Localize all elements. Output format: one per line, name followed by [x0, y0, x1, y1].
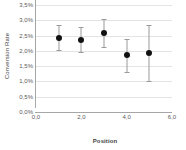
data-point-group	[75, 5, 87, 112]
x-axis-line	[35, 112, 172, 113]
y-axis-title-label: Conversion Rate	[4, 33, 10, 79]
data-point-marker	[124, 52, 130, 58]
y-axis-tick-label: 3,0%	[19, 17, 33, 23]
x-axis-title: Position	[36, 138, 174, 144]
y-axis-tick-label: 2,0%	[19, 48, 33, 54]
error-bar-cap-lower	[56, 50, 61, 51]
x-axis-tick-label: 6,0	[168, 114, 176, 120]
y-axis-tick-label: 1,0%	[19, 78, 33, 84]
x-axis-tick-label: 4,0	[122, 114, 130, 120]
y-axis-title: Conversion Rate	[0, 0, 14, 112]
x-axis-tick-label: 0,0	[32, 114, 40, 120]
error-bar-cap-lower	[124, 72, 129, 73]
y-axis-tick-label: 3,5%	[19, 2, 33, 8]
data-point-marker	[146, 50, 152, 56]
error-bar-cap-lower	[102, 47, 107, 48]
data-point-group	[121, 5, 133, 112]
error-bar-cap-upper	[124, 39, 129, 40]
error-bar-cap-upper	[147, 25, 152, 26]
x-axis-tick-label: 2,0	[77, 114, 85, 120]
y-axis-tick-label: 2,5%	[19, 33, 33, 39]
data-point-group	[98, 5, 110, 112]
data-point-marker	[101, 30, 107, 36]
conversion-rate-chart: Conversion Rate 0,0%0,5%1,0%1,5%2,0%2,5%…	[0, 0, 186, 150]
error-bar-cap-upper	[79, 27, 84, 28]
error-bar-cap-lower	[147, 81, 152, 82]
error-bar-cap-upper	[56, 25, 61, 26]
y-axis-tick-labels: 0,0%0,5%1,0%1,5%2,0%2,5%3,0%3,5%	[13, 0, 35, 112]
data-point-marker	[78, 37, 84, 43]
x-axis-tick-labels: 0,02,04,06,0	[0, 114, 186, 126]
plot-area	[36, 5, 172, 112]
data-point-group	[143, 5, 155, 112]
error-bar-cap-lower	[79, 52, 84, 53]
data-point-group	[53, 5, 65, 112]
y-axis-tick-label: 1,5%	[19, 63, 33, 69]
data-point-marker	[56, 35, 62, 41]
y-axis-line	[35, 0, 36, 108]
y-axis-tick-label: 0,5%	[19, 94, 33, 100]
error-bar-cap-upper	[102, 19, 107, 20]
